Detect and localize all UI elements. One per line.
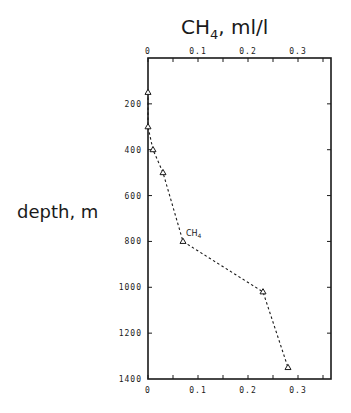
triangle-marker-icon xyxy=(180,238,186,243)
triangle-marker-icon xyxy=(150,147,156,152)
y-tick-label: 600 xyxy=(125,192,142,201)
triangle-marker-icon xyxy=(160,169,166,174)
series-label-ch4: CH4 xyxy=(186,229,202,239)
chart-canvas: CH4, ml/l depth, m 00.10.20.3 00.10.20.3… xyxy=(0,0,351,413)
x-tick-label-bottom: 0.1 xyxy=(189,386,206,395)
y-tick-label: 400 xyxy=(125,146,142,155)
plot-frame xyxy=(148,58,331,379)
triangle-marker-icon xyxy=(260,289,266,294)
x-tick-label-top: 0 xyxy=(145,47,151,56)
triangle-marker-icon xyxy=(145,89,151,94)
x-axis-bottom: 00.10.20.3 xyxy=(145,375,323,395)
triangle-marker-icon xyxy=(285,364,291,369)
y-tick-label: 800 xyxy=(125,237,142,246)
x-tick-label-top: 0.2 xyxy=(239,47,256,56)
x-tick-label-top: 0.1 xyxy=(189,47,206,56)
ch4-markers xyxy=(145,89,291,369)
y-tick-label: 1000 xyxy=(119,283,142,292)
x-tick-label-bottom: 0 xyxy=(145,386,151,395)
y-tick-label: 1200 xyxy=(119,329,142,338)
y-tick-label: 200 xyxy=(125,100,142,109)
x-tick-label-top: 0.3 xyxy=(289,47,306,56)
x-axis-top: 00.10.20.3 xyxy=(145,47,323,62)
chart-title: CH4, ml/l xyxy=(181,15,268,42)
triangle-marker-icon xyxy=(145,124,151,129)
y-axis-label: depth, m xyxy=(17,201,98,222)
x-tick-label-bottom: 0.2 xyxy=(239,386,256,395)
y-axis: 200400600800100012001400 xyxy=(119,100,331,384)
y-tick-label: 1400 xyxy=(119,375,142,384)
x-tick-label-bottom: 0.3 xyxy=(289,386,306,395)
ch4-line xyxy=(148,92,288,367)
